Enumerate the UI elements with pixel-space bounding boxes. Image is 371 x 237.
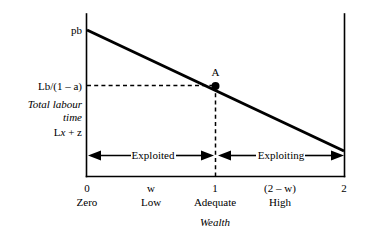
exploited-arrow-left-head	[88, 151, 101, 161]
y-axis-title-line1: Total labour	[28, 98, 83, 110]
x-tick-sublabel-low: Low	[141, 196, 161, 208]
x-axis-title: Wealth	[200, 216, 231, 228]
x-tick-label-0: 0	[84, 182, 90, 194]
y-axis-title-line3-suffix: + z	[65, 126, 82, 138]
x-tick-label-w: w	[147, 182, 155, 194]
region-label-exploited: Exploited	[132, 149, 175, 161]
y-axis-title-line2: time	[63, 111, 82, 123]
y-tick-label-pb: pb	[71, 24, 83, 36]
x-tick-sublabel-zero: Zero	[77, 196, 98, 208]
point-a-marker	[212, 82, 220, 90]
x-tick-label-2minusw: (2 – w)	[264, 182, 296, 195]
y-axis-title-line3: Lx + z	[54, 126, 82, 138]
exploiting-arrow-right-head	[331, 151, 344, 161]
region-label-exploiting: Exploiting	[258, 149, 305, 161]
point-a-label: A	[212, 66, 220, 78]
x-tick-label-1: 1	[212, 182, 218, 194]
labour-time-wealth-chart: pb Lb/(1 – a) Total labour time Lx + z A…	[0, 0, 371, 237]
exploiting-arrow-left-head	[218, 151, 231, 161]
x-tick-sublabel-high: High	[269, 196, 292, 208]
x-tick-sublabel-adequate: Adequate	[194, 196, 236, 208]
figure-container: pb Lb/(1 – a) Total labour time Lx + z A…	[0, 0, 371, 237]
x-tick-label-2: 2	[341, 182, 347, 194]
y-tick-label-lb: Lb/(1 – a)	[38, 80, 82, 93]
exploited-arrow-right-head	[201, 151, 214, 161]
